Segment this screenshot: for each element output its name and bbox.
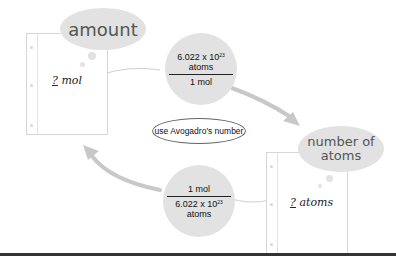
fraction-top: 6.022 x 1023 atoms 1 mol bbox=[169, 52, 233, 87]
arrow-to-amount bbox=[92, 156, 160, 190]
card-hole bbox=[270, 165, 273, 168]
arrow-to-atoms bbox=[232, 88, 292, 118]
thought-dot bbox=[88, 52, 96, 60]
atoms-card-text: ? atoms bbox=[290, 196, 333, 209]
denominator: 6.022 x 1023 bbox=[175, 199, 223, 209]
numerator: 1 mol bbox=[188, 184, 210, 194]
card-margin-line bbox=[37, 34, 38, 134]
atoms-label-line-2: atoms bbox=[321, 149, 361, 163]
amount-bubble: amount bbox=[60, 8, 146, 50]
card-hole bbox=[270, 243, 273, 246]
unknown-mark: ? bbox=[290, 196, 296, 209]
fraction-bottom: 1 mol 6.022 x 1023 atoms bbox=[167, 184, 231, 219]
numerator-base: 6.022 x 10 bbox=[177, 52, 219, 62]
card-margin-line bbox=[277, 153, 278, 253]
card-hole bbox=[30, 124, 33, 127]
amount-card-text: ? mol bbox=[52, 74, 82, 87]
card-hole bbox=[30, 46, 33, 49]
amount-label: amount bbox=[68, 19, 137, 40]
denominator-unit: atoms bbox=[187, 209, 212, 219]
thought-dot bbox=[318, 184, 322, 188]
atoms-bubble: number of atoms bbox=[298, 126, 384, 172]
numerator-exponent: 23 bbox=[219, 52, 225, 58]
avogadro-text: use Avogadro's number bbox=[155, 126, 244, 136]
card-hole bbox=[270, 203, 273, 206]
avogadro-label: use Avogadro's number bbox=[152, 118, 246, 144]
fraction-bar bbox=[169, 74, 233, 75]
fraction-bar bbox=[167, 196, 231, 197]
denominator: 1 mol bbox=[190, 77, 212, 87]
unit-text: mol bbox=[61, 74, 82, 87]
numerator: 6.022 x 1023 bbox=[177, 52, 225, 62]
denominator-exponent: 23 bbox=[217, 199, 223, 205]
conversion-factor-bottom: 1 mol 6.022 x 1023 atoms bbox=[163, 165, 235, 237]
unknown-mark: ? bbox=[52, 74, 58, 87]
numerator-unit: atoms bbox=[189, 62, 214, 72]
card-hole bbox=[30, 84, 33, 87]
atoms-label-line-1: number of bbox=[307, 135, 374, 149]
connector-line-top bbox=[100, 68, 160, 75]
thought-dot bbox=[326, 175, 333, 182]
unit-text: atoms bbox=[299, 196, 333, 209]
denominator-base: 6.022 x 10 bbox=[175, 199, 217, 209]
conversion-factor-top: 6.022 x 1023 atoms 1 mol bbox=[165, 33, 237, 105]
bottom-rule bbox=[0, 253, 396, 256]
thought-dot bbox=[80, 62, 85, 67]
